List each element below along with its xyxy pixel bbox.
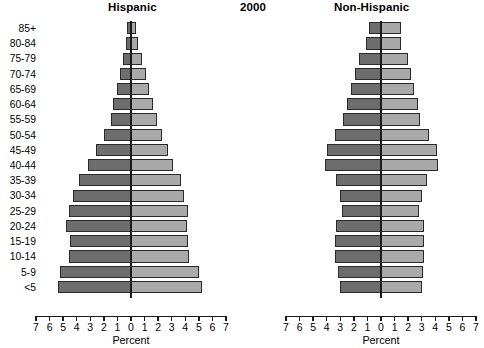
x-axis-tick-label: 1 [360,321,374,333]
x-axis-tick-label: 2 [401,321,415,333]
x-axis-title-non-hispanic: Percent [286,334,476,346]
x-axis-tick-label: 7 [219,321,233,333]
bar-right [131,68,146,80]
bar-left [113,98,131,110]
bar-right [381,205,419,217]
bar-left [104,129,131,141]
bar-right [131,113,157,125]
x-axis-tick-label: 7 [279,321,293,333]
age-group-label: 65-69 [10,82,36,97]
x-axis-tick-label: 3 [83,321,97,333]
bar-left [343,113,381,125]
x-axis-tick-label: 6 [293,321,307,333]
x-axis-tick-label: 3 [415,321,429,333]
x-axis-tick-label: 6 [205,321,219,333]
x-axis-tick-label: 5 [56,321,70,333]
x-axis-tick-label: 2 [347,321,361,333]
age-group-label: 70-74 [10,67,36,82]
bar-left [336,174,381,186]
x-axis-tick-label: 1 [138,321,152,333]
age-group-label: 20-24 [10,219,36,234]
bar-left [336,220,381,232]
bar-left [325,159,381,171]
bar-left [73,190,131,202]
bar-right [381,235,424,247]
x-axis-tick-label: 1 [388,321,402,333]
age-group-label: 80-84 [10,36,36,51]
bar-left [351,83,381,95]
x-axis-tick-label: 5 [306,321,320,333]
bar-left [79,174,131,186]
x-axis-tick-label: 7 [29,321,43,333]
bar-left [69,250,131,262]
bar-right [131,159,173,171]
bar-left [342,205,381,217]
panel-title-hispanic: Hispanic [108,1,157,13]
age-group-label: 40-44 [10,158,36,173]
age-group-label: 85+ [19,21,36,36]
bar-right [131,144,168,156]
bar-right [381,129,429,141]
x-axis-tick-label: 7 [469,321,483,333]
panel-non-hispanic: Percent 765432101234567 [286,21,484,295]
panel-hispanic: Percent 765432101234567 [36,21,236,295]
age-group-label: 50-54 [10,128,36,143]
bar-left [340,190,381,202]
bar-left [335,129,381,141]
bar-right [381,281,422,293]
bar-right [381,220,424,232]
age-group-label: 25-29 [10,204,36,219]
age-group-label: 60-64 [10,97,36,112]
bar-left [117,83,131,95]
bar-right [381,250,424,262]
figure-titles: Hispanic 2000 Non-Hispanic [0,0,484,17]
age-group-label: 55-59 [10,112,36,127]
bar-right [381,113,420,125]
x-axis-tick-label: 3 [333,321,347,333]
bar-right [381,22,401,34]
bar-right [381,159,438,171]
bar-right [131,22,136,34]
bar-left [111,113,131,125]
bar-right [381,144,437,156]
age-group-label: 35-39 [10,173,36,188]
bar-right [131,205,188,217]
x-axis-tick-label: 4 [320,321,334,333]
bar-right [131,250,189,262]
bar-left [369,22,381,34]
bar-left [335,235,381,247]
x-axis-tick-label: 4 [70,321,84,333]
bar-right [131,281,202,293]
panel-title-non-hispanic: Non-Hispanic [334,1,409,13]
bar-left [327,144,381,156]
bar-right [131,190,184,202]
x-axis-title-hispanic: Percent [36,334,226,346]
plot-area-hispanic [36,21,226,295]
x-axis-tick-label: 6 [455,321,469,333]
age-group-axis: 85+80-8475-7970-7465-6960-6455-5950-5445… [0,21,36,295]
zero-axis-line-non-hispanic [380,21,382,298]
x-axis-hispanic: Percent 765432101234567 [36,316,226,348]
bar-left [355,68,381,80]
x-axis-tick-label: 4 [178,321,192,333]
age-group-label: 15-19 [10,234,36,249]
plot-area-non-hispanic [286,21,476,295]
age-group-label: 30-34 [10,188,36,203]
bar-left [60,266,131,278]
x-axis-tick-label: 4 [428,321,442,333]
bar-left [88,159,131,171]
bar-left [340,281,381,293]
bar-right [381,266,423,278]
age-group-label: 5-9 [21,265,36,280]
x-axis-tick-label: 1 [110,321,124,333]
bar-left [366,37,381,49]
bar-right [131,83,149,95]
x-axis-tick-label: 5 [442,321,456,333]
x-axis-tick-label: 6 [43,321,57,333]
bar-left [70,235,131,247]
bar-right [381,83,414,95]
bar-right [131,98,153,110]
bar-right [131,266,199,278]
x-axis-tick-label: 3 [165,321,179,333]
zero-axis-line-hispanic [130,21,132,298]
